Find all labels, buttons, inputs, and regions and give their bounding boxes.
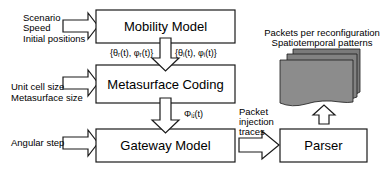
input-initial-positions: Initial positions xyxy=(23,33,86,44)
traces-label-line3: traces xyxy=(239,126,265,137)
output-patterns-stack-icon xyxy=(280,49,360,106)
output-spatiotemporal-patterns: Spatiotemporal patterns xyxy=(272,37,373,48)
input-metasurface-size: Metasurface size xyxy=(11,92,83,103)
transmitter-angles-label: {θᵢ(t), φᵢ(t)} xyxy=(175,48,217,58)
receiver-angles-label: {θᵣ(t), φᵣ(t)} xyxy=(110,48,153,58)
parser-label: Parser xyxy=(304,138,343,153)
input-angular-step: Angular step xyxy=(11,137,64,148)
metasurface-coding-label: Metasurface Coding xyxy=(107,77,223,92)
gateway-model-label: Gateway Model xyxy=(120,138,210,153)
arrow-parser-to-output xyxy=(313,105,335,124)
phase-label: Φᵢⱼ(t) xyxy=(184,109,203,119)
diagram-canvas: Mobility Model Metasurface Coding Gatewa… xyxy=(0,0,390,173)
input-arrow-gateway xyxy=(63,130,98,156)
mobility-model-label: Mobility Model xyxy=(124,19,207,34)
input-unit-cell-size: Unit cell size xyxy=(11,81,64,92)
input-speed: Speed xyxy=(23,22,50,33)
